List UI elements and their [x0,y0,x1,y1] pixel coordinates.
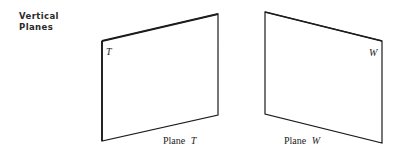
plane-w-caption-prefix: Plane [284,135,307,146]
plane-w-caption: Plane W [284,135,322,146]
plane-w-corner-label: W [369,47,379,58]
plane-t-top-edge [102,14,218,41]
plane-t-caption-letter: T [191,135,198,146]
plane-t-caption-prefix: Plane [163,135,186,146]
plane-t: T Plane T [102,14,218,146]
plane-w: W Plane W [265,12,382,146]
plane-w-caption-letter: W [312,135,322,146]
plane-w-top-edge [265,12,382,41]
plane-t-outline [102,14,218,141]
plane-w-outline [265,12,382,143]
plane-t-corner-label: T [106,46,113,57]
vertical-planes-diagram: T Plane T W Plane W [0,0,400,152]
plane-t-caption: Plane T [163,135,198,146]
